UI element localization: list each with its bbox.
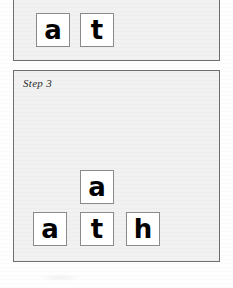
letter-tile[interactable]: t xyxy=(80,212,114,246)
letter-tile[interactable]: h xyxy=(126,212,160,246)
tile-letter: t xyxy=(91,17,103,43)
step-label: Step 3 xyxy=(23,77,52,89)
tile-letter: t xyxy=(91,216,103,242)
scan-artifact xyxy=(38,274,82,281)
panel-step-3: Step 3 a a t h xyxy=(13,70,220,262)
panel-previous-step: a t xyxy=(13,0,220,61)
tile-letter: a xyxy=(44,17,62,43)
tile-letter: a xyxy=(88,174,106,200)
letter-tile[interactable]: a xyxy=(80,170,114,204)
tile-letter: a xyxy=(41,216,59,242)
letter-tile[interactable]: t xyxy=(80,13,114,47)
letter-tile[interactable]: a xyxy=(33,212,67,246)
letter-tile[interactable]: a xyxy=(36,13,70,47)
tile-letter: h xyxy=(134,216,153,242)
